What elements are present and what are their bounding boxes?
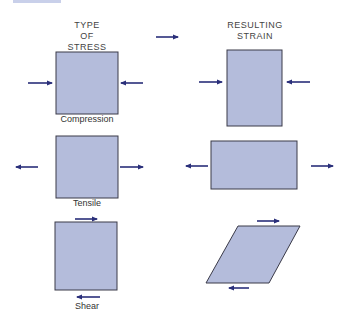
compression-stress-block [56,52,118,114]
tensile-label: Tensile [52,198,122,208]
tensile-stress-block [56,136,118,198]
compression-strain-block [227,50,282,126]
compression-label: Compression [52,114,122,124]
shear-label: Shear [52,301,122,311]
shear-strain-block [206,226,300,283]
stress-strain-diagram [0,0,350,323]
tensile-strain-block [211,141,297,189]
shear-stress-block [55,222,117,290]
